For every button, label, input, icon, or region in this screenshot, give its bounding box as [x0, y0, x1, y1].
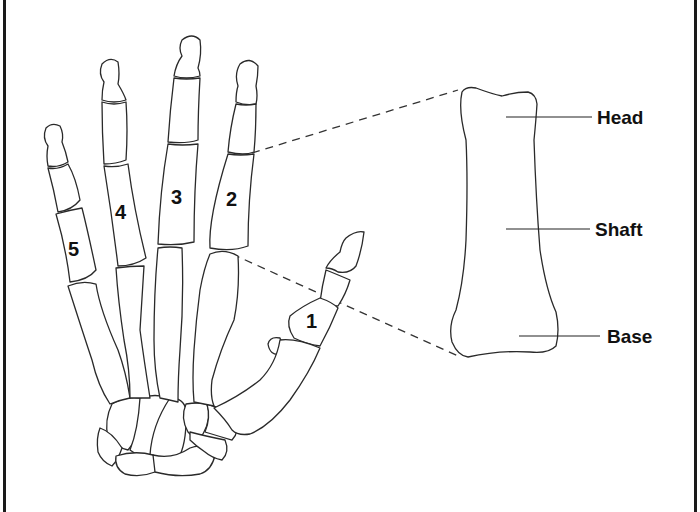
metacarpal-label-5: 5 [68, 238, 79, 260]
metacarpal-label-2: 2 [226, 188, 237, 210]
metacarpal-label-1: 1 [306, 310, 317, 332]
dashed-guide-top [252, 90, 458, 153]
metacarpal-label-4: 4 [115, 201, 127, 223]
base-label: Base [607, 326, 652, 347]
finger-2 [193, 60, 258, 406]
shaft-label: Shaft [595, 219, 643, 240]
metacarpal-label-3: 3 [171, 186, 182, 208]
head-label: Head [597, 107, 643, 128]
hand-skeleton-diagram: 1 2 3 4 5 Head Shaft Base [0, 0, 700, 512]
diagram-frame: 1 2 3 4 5 Head Shaft Base [0, 0, 700, 512]
enlarged-metacarpal [451, 88, 558, 358]
